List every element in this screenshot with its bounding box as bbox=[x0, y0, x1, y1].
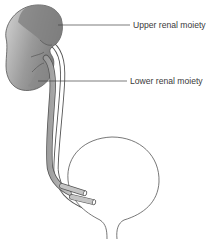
duplex-kidney-diagram: Upper renal moiety Lower renal moiety bbox=[0, 0, 216, 239]
upper-renal-moiety-label: Upper renal moiety bbox=[133, 20, 206, 30]
lower-renal-moiety-label: Lower renal moiety bbox=[130, 76, 203, 86]
bladder bbox=[68, 137, 159, 239]
bladder-outline bbox=[68, 137, 159, 239]
